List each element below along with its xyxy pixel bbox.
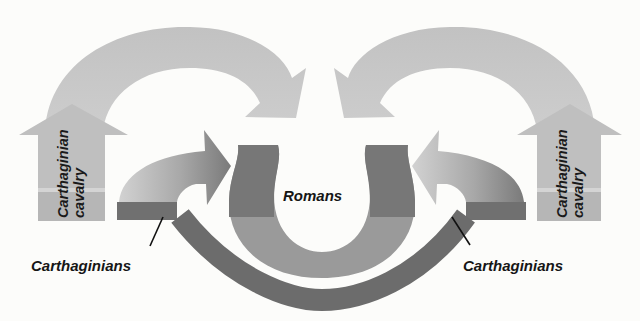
left-infantry-flank-arrow xyxy=(117,130,231,220)
carthaginians-right-label: Carthaginians xyxy=(463,257,563,274)
romans-label: Romans xyxy=(283,187,342,204)
cavalry-left-label-line1: Carthaginian xyxy=(55,129,71,218)
romans-formation xyxy=(229,145,415,278)
carthaginians-left-label: Carthaginians xyxy=(31,257,131,274)
cavalry-left-label-line2: cavalry xyxy=(71,167,87,218)
cavalry-right-label-line2: cavalry xyxy=(570,167,586,218)
cavalry-right-label-line1: Carthaginian xyxy=(554,129,570,218)
right-infantry-flank-arrow xyxy=(412,130,526,220)
left-carthaginians-leader-line xyxy=(150,217,163,246)
cannae-battle-diagram: Romans Carthaginians Carthaginians Carth… xyxy=(0,0,640,321)
